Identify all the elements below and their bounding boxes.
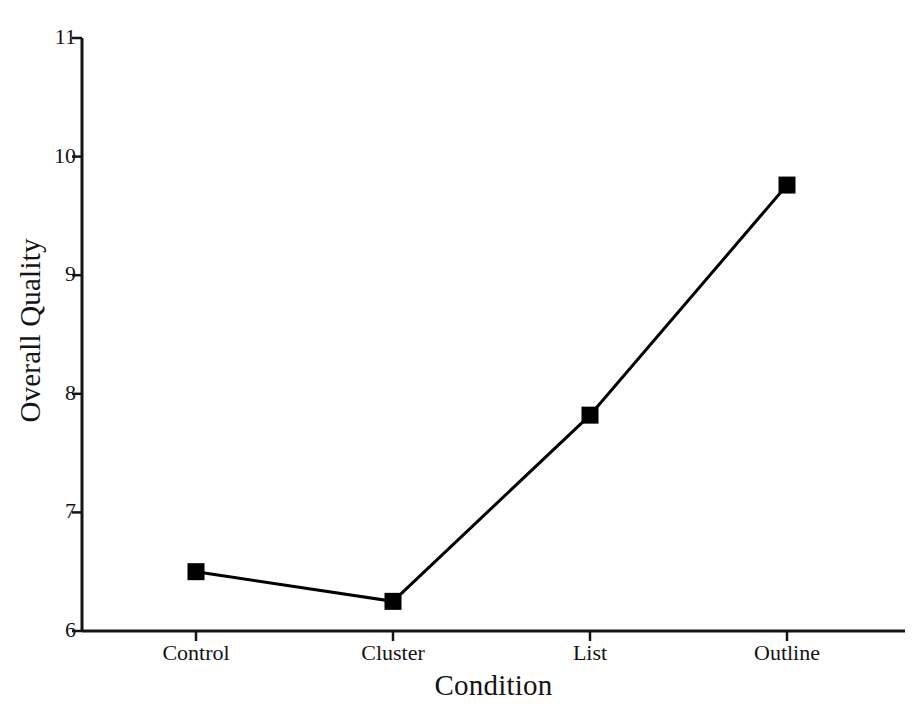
- data-series-line: [196, 185, 787, 601]
- data-point-marker: [582, 407, 599, 424]
- data-point-markers: [188, 177, 796, 610]
- data-point-marker: [188, 563, 205, 580]
- data-point-marker: [385, 593, 402, 610]
- line-chart-figure: Overall Quality 67891011 ControlClusterL…: [0, 0, 915, 720]
- plot-area: [0, 0, 915, 720]
- axis-lines: [82, 38, 905, 631]
- data-point-marker: [779, 177, 796, 194]
